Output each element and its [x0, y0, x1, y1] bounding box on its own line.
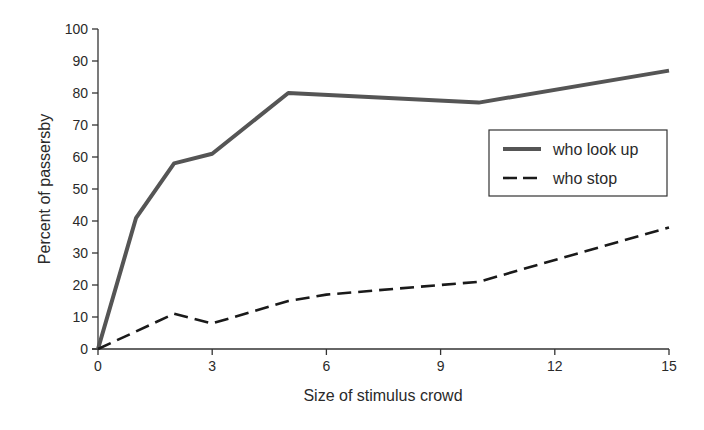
x-tick-label: 0	[94, 358, 102, 374]
y-tick-label: 10	[72, 309, 88, 325]
y-tick-label: 90	[72, 53, 88, 69]
series-line-look-up	[98, 71, 669, 349]
y-tick-label: 70	[72, 117, 88, 133]
y-tick-label: 30	[72, 245, 88, 261]
x-tick-label: 3	[208, 358, 216, 374]
legend-label-stop: who stop	[552, 170, 617, 187]
y-tick-label: 60	[72, 149, 88, 165]
y-tick-label: 0	[80, 341, 88, 357]
x-axis-title: Size of stimulus crowd	[303, 387, 462, 404]
y-tick-label: 100	[65, 21, 89, 37]
line-chart: 0102030405060708090100 03691215 Percent …	[0, 0, 704, 430]
x-tick-label: 9	[437, 358, 445, 374]
series-group	[98, 71, 669, 349]
series-line-stop	[98, 227, 669, 349]
legend: who look up who stop	[489, 130, 667, 196]
y-tick-label: 20	[72, 277, 88, 293]
x-axis: 03691215	[92, 349, 677, 374]
x-tick-label: 6	[323, 358, 331, 374]
y-tick-label: 40	[72, 213, 88, 229]
y-axis: 0102030405060708090100	[65, 21, 98, 357]
y-axis-title: Percent of passersby	[36, 114, 53, 264]
legend-label-look-up: who look up	[552, 141, 638, 158]
x-tick-label: 15	[661, 358, 677, 374]
y-tick-label: 80	[72, 85, 88, 101]
y-tick-label: 50	[72, 181, 88, 197]
x-tick-label: 12	[547, 358, 563, 374]
